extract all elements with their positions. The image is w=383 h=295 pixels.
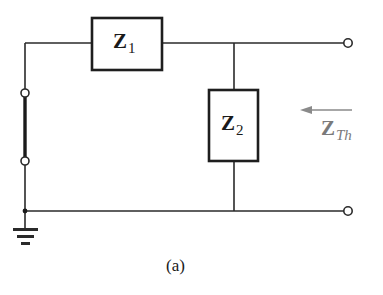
arrow-left-icon (300, 106, 352, 114)
zth-subscript: Th (336, 127, 352, 143)
right-terminal-top (344, 39, 352, 47)
z1-symbol: Z (113, 29, 127, 53)
z2-symbol: Z (221, 111, 235, 135)
left-terminal-bottom (21, 157, 29, 165)
right-terminal-bottom (344, 207, 352, 215)
left-terminal-top (21, 89, 29, 97)
zth-label: ZTh (321, 116, 352, 141)
zth-symbol: Z (321, 116, 335, 140)
z1-label: Z1 (113, 29, 136, 54)
z2-label: Z2 (221, 111, 244, 136)
z1-subscript: 1 (128, 40, 136, 56)
ground-icon (13, 228, 38, 245)
ground-node (23, 209, 28, 214)
circuit-diagram (0, 0, 383, 295)
figure-caption: (a) (166, 256, 185, 276)
z2-subscript: 2 (236, 122, 244, 138)
